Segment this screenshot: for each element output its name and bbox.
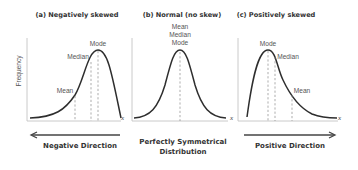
positive-direction-arrow [244,132,335,138]
negative-direction-label: Negative Direction [43,142,117,150]
panel-b-title: (b) Normal (no skew) [143,11,221,19]
frequency-axis-label: Frequency [15,55,23,87]
panel-a-mode-label: Mode [90,40,107,47]
panel-c-median-label: Median [277,53,299,60]
symmetric-label-line1: Perfectly Symmetrical [139,138,226,146]
panel-c-mean-label: Mean [294,87,311,94]
panel-a-mean-label: Mean [57,87,74,94]
panel-a-title: (a) Negatively skewed [36,11,119,19]
panel-b-mode-label: Mode [172,39,189,46]
symmetric-label-line2: Distribution [159,148,206,156]
panel-normal: (b) Normal (no skew) Mean Median Mode x [132,11,234,122]
panel-b-median-label: Median [169,31,191,38]
panel-a-median-label: Median [67,53,89,60]
panel-a-curve [30,50,121,118]
panel-c-x-label: x [337,114,342,122]
panel-c-title: (c) Positively skewed [237,11,316,19]
panel-negatively-skewed: (a) Negatively skewed Frequency Mean Med… [15,11,125,122]
positive-direction-label: Positive Direction [255,142,325,150]
panel-a-x-label: x [120,114,125,122]
negative-direction-arrow [31,132,120,138]
panel-b-mean-label: Mean [172,23,189,30]
panel-positively-skewed: (c) Positively skewed Mode Median Mean x [237,11,342,122]
panel-a-axes [27,38,121,121]
panel-c-mode-label: Mode [260,40,277,47]
panel-b-x-label: x [229,114,234,122]
skewness-diagram: (a) Negatively skewed Frequency Mean Med… [0,0,358,170]
